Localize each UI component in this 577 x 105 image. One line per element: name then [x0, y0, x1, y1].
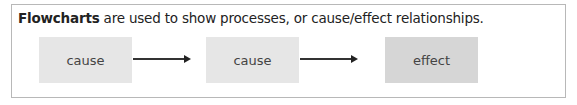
flow-node-effect: effect — [385, 37, 478, 83]
intro-text: Flowcharts are used to show processes, o… — [18, 10, 484, 26]
arrow-icon — [300, 58, 358, 60]
node-label: cause — [66, 53, 104, 68]
flowchart-panel: Flowcharts are used to show processes, o… — [11, 4, 566, 98]
intro-rest: are used to show processes, or cause/eff… — [99, 10, 483, 26]
flow-node-cause-1: cause — [39, 37, 132, 83]
arrow-icon — [133, 58, 191, 60]
node-label: cause — [233, 53, 271, 68]
flow-node-cause-2: cause — [206, 37, 299, 83]
node-label: effect — [413, 53, 450, 68]
intro-bold-term: Flowcharts — [18, 10, 99, 26]
